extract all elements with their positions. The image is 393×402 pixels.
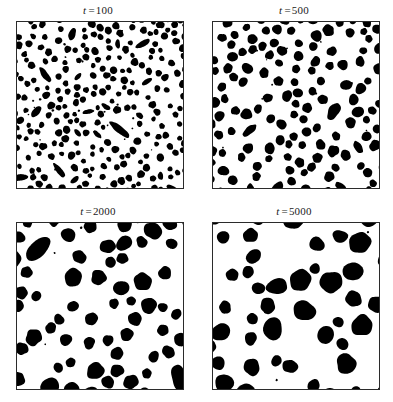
panel-label-equals: =	[85, 205, 93, 217]
panel-t2000: t=2000	[0, 201, 196, 402]
panel-frame-t100	[16, 21, 184, 189]
panel-frame-t5000	[212, 222, 380, 390]
panel-label-t5000: t=5000	[196, 205, 392, 218]
panel-label-value: 5000	[289, 205, 312, 217]
coarsening-figure: t=100 t=500 t=2000 t=5000	[0, 0, 393, 402]
panel-label-equals: =	[283, 4, 291, 16]
panel-frame-t2000	[16, 222, 184, 390]
panel-t5000: t=5000	[196, 201, 392, 402]
panel-canvas-t500	[213, 22, 379, 188]
panel-frame-t500	[212, 21, 380, 189]
panel-label-value: 2000	[93, 205, 116, 217]
panel-label-variable: t	[80, 205, 84, 217]
panel-canvas-t2000	[17, 223, 183, 389]
panel-label-t500: t=500	[196, 4, 392, 17]
panel-label-t100: t=100	[0, 4, 196, 17]
panel-label-variable: t	[276, 205, 280, 217]
panel-label-value: 500	[292, 4, 309, 16]
panel-canvas-t100	[17, 22, 183, 188]
panel-canvas-t5000	[213, 223, 379, 389]
panel-label-equals: =	[87, 4, 95, 16]
panel-label-t2000: t=2000	[0, 205, 196, 218]
panel-label-value: 100	[96, 4, 113, 16]
panel-t100: t=100	[0, 0, 196, 201]
panel-label-equals: =	[281, 205, 289, 217]
panel-t500: t=500	[196, 0, 392, 201]
